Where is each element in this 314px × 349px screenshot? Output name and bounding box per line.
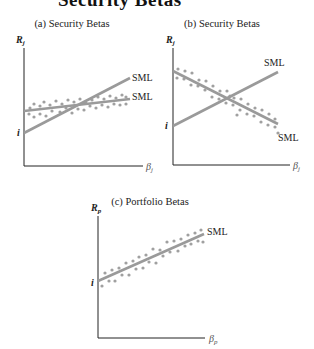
panel-b-x-label: βj bbox=[292, 160, 300, 173]
panel-a-x-label: βj bbox=[145, 161, 153, 174]
panel-c-sml-label: SML bbox=[207, 226, 228, 237]
panel-b-scatter-dots bbox=[175, 67, 279, 134]
panel-c-x-label: βp bbox=[208, 333, 218, 346]
panel-c-sml-line bbox=[98, 234, 204, 281]
panel-b-intercept-label: i bbox=[165, 120, 168, 131]
panel-c-title: (c) Portfolio Betas bbox=[111, 196, 189, 208]
panel-a-intercept-label: i bbox=[17, 127, 20, 138]
panel-b-sml-label-falling: SML bbox=[278, 132, 299, 143]
panel-b-title: (b) Security Betas bbox=[184, 18, 260, 30]
panel-b: (b) Security Betas Rj βj i SML SML bbox=[165, 18, 300, 173]
panel-a-y-label: Rj bbox=[15, 34, 25, 47]
panel-a-sml-label-flat: SML bbox=[132, 91, 153, 102]
panel-c-intercept-label: i bbox=[91, 277, 94, 288]
panel-c-y-label: Rp bbox=[90, 202, 102, 215]
panel-b-y-label: Rj bbox=[165, 34, 175, 47]
panel-c: (c) Portfolio Betas Rp βp i SML bbox=[90, 196, 228, 346]
panel-a-sml-label-steep: SML bbox=[132, 72, 153, 83]
panel-a-title: (a) Security Betas bbox=[34, 18, 109, 30]
diagram-canvas: (a) Security Betas Rj βj i SML SML (b) S… bbox=[0, 0, 314, 349]
panel-b-sml-label-rising: SML bbox=[264, 57, 285, 68]
panel-a: (a) Security Betas Rj βj i SML SML bbox=[15, 18, 153, 174]
